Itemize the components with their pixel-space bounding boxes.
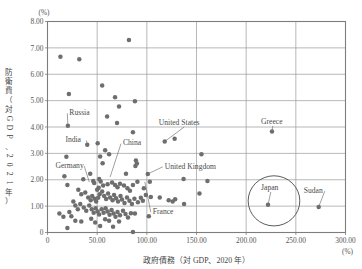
data-point [127,38,132,43]
data-point [199,152,204,157]
data-point [197,191,202,196]
data-point [136,200,141,205]
data-point [58,55,63,60]
leader-line [110,144,121,177]
data-point [100,83,105,88]
data-point [130,202,135,207]
data-point [129,211,134,216]
data-point [101,210,106,215]
data-point [98,224,103,229]
y-tick-label: 3.00 [31,149,44,158]
data-point [131,183,136,188]
data-point [149,195,154,200]
data-point [142,186,147,191]
leader-line [148,167,163,174]
y-title-char: 費 [2,86,16,95]
x-tick-label: 100.00 [137,236,158,245]
data-point [62,174,67,179]
x-tick-label: 50.00 [89,236,106,245]
data-point [76,188,81,193]
data-point [128,189,133,194]
data-point [172,137,177,142]
y-tick-label: 0 [40,228,44,237]
data-point [107,213,112,218]
data-point [132,196,137,201]
data-point [141,199,146,204]
data-point [67,92,72,97]
data-point [131,130,136,135]
y-tick-label: 8.00 [31,17,44,26]
y-tick-label: 4.00 [31,123,44,132]
data-point [73,218,78,223]
annotation-label-france: France [153,207,174,216]
x-axis-title-text: 政府債務（対 GDP、2020 年） [143,255,250,265]
data-point [89,217,94,222]
data-point [78,202,83,207]
data-point [96,185,101,190]
x-tick-label: 0 [46,236,50,245]
x-axis-unit: (%) [342,247,354,256]
data-point [84,209,89,214]
data-point [135,180,140,185]
annotation-label-germany: Germany [55,161,83,170]
data-point [166,198,171,203]
y-title-char: P [4,130,13,144]
data-point [57,211,62,216]
data-point [100,161,105,166]
annotation-label-united-kingdom: United Kingdom [165,162,216,171]
data-point [105,114,110,119]
y-title-char: 防 [2,68,16,77]
data-point [116,199,121,204]
scatter-chart-figure: 防衛費（対GDP、2021年） 8.007.006.005.004.003.00… [0,0,362,269]
data-point [133,164,138,169]
annotation-label-japan: Japan [261,183,278,192]
data-point [88,171,93,176]
data-point [205,179,210,184]
x-tick-label: 150.00 [186,236,207,245]
data-point [147,214,152,219]
data-point [103,148,108,153]
data-point [87,203,92,208]
plot-canvas: 8.007.006.005.004.003.002.001.000050.001… [0,0,362,269]
data-point [98,179,103,184]
data-point [157,195,162,200]
data-point [117,104,122,109]
y-axis-title: 防衛費（対GDP、2021年） [2,68,16,206]
annotation-label-sudan: Sudan [304,186,323,195]
annotation-label-united-states: United States [159,118,200,127]
y-tick-label: 1.00 [31,202,44,211]
data-point [81,177,86,182]
data-point [113,95,118,100]
annotation-label-china: China [123,138,142,147]
data-point [131,230,136,235]
annotation-label-india: India [65,135,81,144]
data-point [133,99,138,104]
data-point [93,220,98,225]
data-point [67,210,72,215]
data-point [98,154,103,159]
data-point [173,197,178,202]
data-point [104,197,109,202]
y-tick-label: 7.00 [31,44,44,53]
data-point [73,203,78,208]
x-tick-label: 200.00 [236,236,257,245]
data-point [105,182,110,187]
data-point [92,181,97,186]
data-point [97,212,102,217]
data-points [57,38,321,235]
data-point [124,171,128,176]
y-tick-label: 2.00 [31,175,44,184]
data-point [69,214,74,219]
data-point [88,198,93,203]
data-point [181,177,186,182]
data-point [107,218,112,223]
data-point [118,213,123,218]
data-point [64,155,69,160]
data-point [117,219,122,224]
data-point [91,210,96,215]
leader-line [268,192,271,205]
data-point [61,214,66,219]
x-tick-label: 250.00 [286,236,307,245]
data-point [148,180,153,185]
y-title-char: ） [2,197,16,206]
